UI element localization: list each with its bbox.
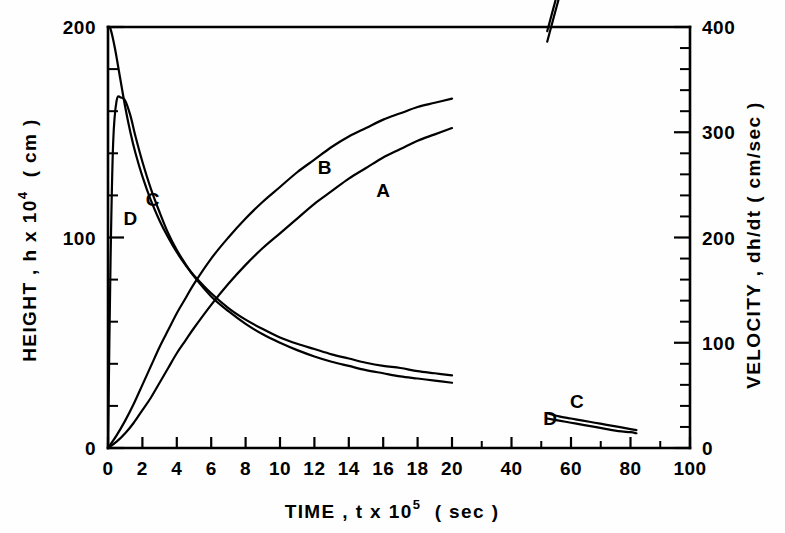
- svg-text:TIME , t x 105 ( sec ): TIME , t x 105 ( sec ): [285, 497, 500, 522]
- svg-text:VELOCITY , dh/dt ( cm/sec ): VELOCITY , dh/dt ( cm/sec ): [743, 101, 764, 389]
- svg-text:HEIGHT , h x 104 ( cm ): HEIGHT , h x 104 ( cm ): [15, 118, 40, 362]
- x-tick-label: 14: [338, 458, 360, 479]
- x-tick-label: 100: [673, 458, 706, 479]
- x-tick-label: 20: [441, 458, 463, 479]
- x-tick-label: 10: [269, 458, 291, 479]
- y-right-tick-label: 200: [702, 228, 735, 249]
- x-tick-label: 18: [407, 458, 429, 479]
- y-right-tick-label: 400: [702, 17, 735, 38]
- curve-label-a: A: [376, 180, 390, 201]
- y-right-tick-label: 300: [702, 122, 735, 143]
- curve-label2-d: D: [543, 408, 557, 429]
- y-left-tick-label: 0: [85, 438, 96, 459]
- x-axis-title: TIME , t x 105 ( sec ): [285, 497, 500, 522]
- x-tick-label: 40: [500, 458, 522, 479]
- curve-label2-c: C: [570, 391, 584, 412]
- x-tick-label: 60: [560, 458, 582, 479]
- curve-label-b: B: [318, 157, 332, 178]
- x-tick-label: 16: [372, 458, 394, 479]
- chart-svg: 0246810121416182040608010001002000100200…: [0, 0, 785, 533]
- figure-container: 0246810121416182040608010001002000100200…: [0, 0, 785, 533]
- x-tick-label: 4: [171, 458, 182, 479]
- x-tick-label: 8: [240, 458, 251, 479]
- y-left-tick-label: 100: [63, 228, 96, 249]
- y-axis-left-title: HEIGHT , h x 104 ( cm ): [15, 118, 40, 362]
- x-tick-label: 6: [206, 458, 217, 479]
- x-tick-label: 80: [619, 458, 641, 479]
- y-left-tick-label: 200: [63, 17, 96, 38]
- chart-background: [0, 0, 785, 533]
- y-right-tick-label: 100: [702, 333, 735, 354]
- x-tick-label: 2: [137, 458, 148, 479]
- y-axis-right-title: VELOCITY , dh/dt ( cm/sec ): [743, 101, 764, 389]
- x-tick-label: 12: [303, 458, 325, 479]
- x-tick-label: 0: [102, 458, 113, 479]
- y-right-tick-label: 0: [702, 438, 713, 459]
- curve-label-d: D: [123, 208, 137, 229]
- curve-label-c: C: [146, 189, 160, 210]
